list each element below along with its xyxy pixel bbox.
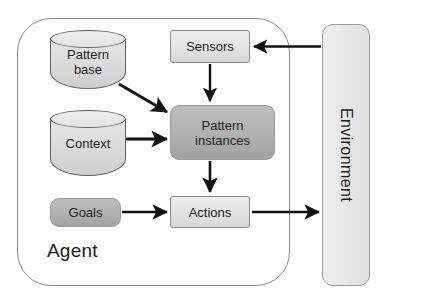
node-actions[interactable]: Actions: [170, 196, 250, 228]
cylinder-top-ellipse: [50, 110, 126, 128]
environment-label: Environment: [337, 108, 355, 202]
node-pattern-instances[interactable]: Pattern instances: [170, 105, 275, 160]
node-goals[interactable]: Goals: [50, 198, 121, 227]
cylinder-top-ellipse: [50, 30, 126, 48]
pattern-instances-line1: Pattern: [195, 118, 250, 133]
datastore-pattern-base[interactable]: Pattern base: [50, 30, 126, 89]
node-environment[interactable]: Environment: [322, 24, 370, 286]
pattern-instances-line2: instances: [195, 133, 250, 148]
pattern-base-line2: base: [50, 61, 126, 76]
datastore-context[interactable]: Context: [50, 110, 126, 176]
datastore-context-label: Context: [50, 136, 126, 151]
datastore-pattern-base-label: Pattern base: [50, 46, 126, 76]
pattern-base-line1: Pattern: [50, 46, 126, 61]
diagram-canvas: Agent Pattern base Context Sensors Patte…: [0, 0, 422, 306]
pattern-instances-text: Pattern instances: [195, 118, 250, 148]
node-sensors[interactable]: Sensors: [170, 30, 250, 63]
agent-label: Agent: [47, 240, 98, 262]
